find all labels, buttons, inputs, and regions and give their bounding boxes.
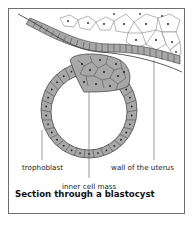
label-uterus-wall: wall of the uterus (111, 163, 174, 172)
figure-caption: Section through a blastocyst (15, 189, 155, 199)
label-trophoblast: trophoblast (22, 163, 63, 172)
